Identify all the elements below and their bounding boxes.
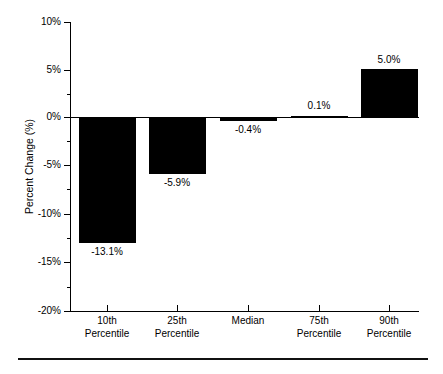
- y-tick-minor: [67, 238, 71, 239]
- y-tick-minor: [67, 287, 71, 288]
- x-tick: [177, 305, 178, 312]
- chart-figure: Percent Change (%) 10% 5% 0% -5% -10% -1…: [0, 0, 443, 374]
- y-tick-major: [64, 311, 71, 312]
- y-tick-minor: [67, 94, 71, 95]
- x-tick: [389, 305, 390, 312]
- y-tick-label: 0%: [47, 112, 61, 122]
- y-tick-label: 5%: [47, 65, 61, 75]
- y-axis-title: Percent Change (%): [21, 22, 37, 311]
- y-tick-major: [64, 214, 71, 215]
- bar-value-label: 0.1%: [264, 100, 374, 111]
- y-tick-label: -10%: [38, 209, 61, 219]
- y-tick-minor: [67, 141, 71, 142]
- x-tick-label-line2: Percentile: [122, 328, 232, 341]
- y-tick-minor: [67, 189, 71, 190]
- bar-median: [220, 117, 277, 121]
- y-tick-label: -5%: [43, 160, 61, 170]
- bar-value-label: -0.4%: [193, 124, 303, 135]
- y-axis-line: [70, 22, 71, 312]
- y-tick-label: -15%: [38, 257, 61, 267]
- x-tick-label-line2: Percentile: [334, 328, 443, 341]
- y-tick-major: [64, 70, 71, 71]
- bar-value-label: -5.9%: [122, 177, 232, 188]
- x-tick-label-line1: 90th: [334, 315, 443, 328]
- x-tick-label-90th-percentile: 90th Percentile: [334, 315, 443, 340]
- x-axis-line: [70, 311, 419, 312]
- bar-value-label: -13.1%: [52, 246, 162, 257]
- x-tick: [248, 305, 249, 312]
- y-tick-label: 10%: [41, 17, 61, 27]
- bar-value-label: 5.0%: [334, 54, 443, 65]
- y-tick-major: [64, 262, 71, 263]
- x-tick: [319, 305, 320, 312]
- y-tick-major: [64, 22, 71, 23]
- y-tick-major: [64, 165, 71, 166]
- bar-75th-percentile: [291, 116, 348, 118]
- footer-divider: [18, 358, 428, 360]
- x-tick: [107, 305, 108, 312]
